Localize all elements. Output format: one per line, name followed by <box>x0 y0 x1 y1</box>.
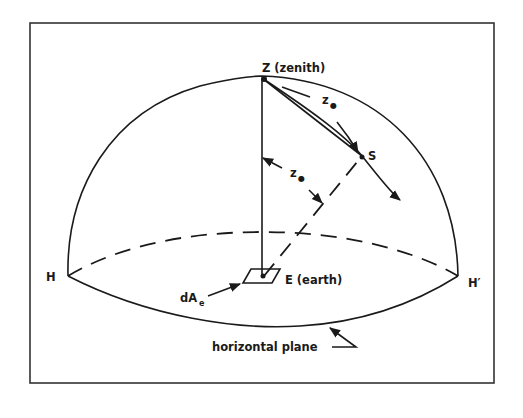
hemisphere-dome <box>68 76 458 276</box>
zenith-sun-line <box>262 78 362 156</box>
label-lower-angle-z: z <box>290 166 297 180</box>
upper-zenith-angle-arrow <box>337 122 358 152</box>
upper-zenith-angle-tick <box>282 87 310 97</box>
lower-angle-arrow-right <box>309 190 322 203</box>
label-area-dA: dA <box>180 291 197 305</box>
horizontal-plane-leader <box>330 328 356 347</box>
earth-sun-line <box>264 156 362 276</box>
zenith-point <box>261 76 267 82</box>
label-lower-angle-sub: ● <box>298 174 305 183</box>
lower-angle-arrow-left <box>263 158 282 168</box>
label-upper-angle-z: z <box>322 93 329 107</box>
label-horizon-left: H <box>46 270 56 284</box>
label-earth: E (earth) <box>285 273 342 287</box>
label-horizontal-plane: horizontal plane <box>212 340 318 354</box>
earth-point <box>261 274 266 279</box>
label-area-sub: e <box>199 299 205 308</box>
celestial-hemisphere-diagram: Z (zenith) S E (earth) H H′ dA e z ● z ●… <box>0 0 523 418</box>
label-sun: S <box>368 149 376 163</box>
sun-path-arc <box>262 78 400 200</box>
dAe-arrow <box>208 284 240 296</box>
label-upper-angle-sub: ● <box>330 101 337 110</box>
sun-point <box>360 155 365 160</box>
label-zenith: Z (zenith) <box>262 61 325 75</box>
label-horizon-right: H′ <box>468 276 481 290</box>
